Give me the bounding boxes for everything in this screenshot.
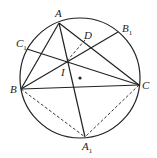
label-I: I — [60, 66, 66, 78]
label-B: B — [10, 83, 17, 95]
label-C: C — [142, 79, 150, 91]
label-A: A — [54, 7, 62, 19]
label-C1: C1 — [16, 37, 27, 52]
segment-BB1 — [21, 32, 118, 89]
circle-center-dot — [78, 76, 81, 79]
geometry-diagram: A B C A1 B1 C1 D I — [0, 0, 157, 158]
label-B1: B1 — [122, 22, 133, 37]
segment-ID — [67, 40, 85, 61]
segment-CC1 — [27, 49, 139, 85]
label-D: D — [83, 29, 92, 41]
segment-BC — [21, 85, 139, 89]
label-A1: A1 — [81, 140, 93, 155]
